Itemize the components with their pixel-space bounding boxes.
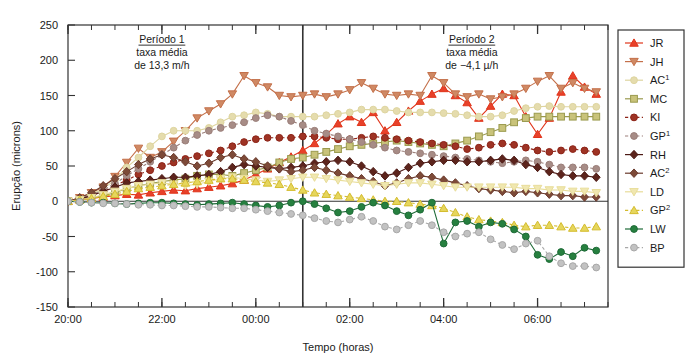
data-point bbox=[358, 139, 365, 146]
data-point bbox=[487, 113, 494, 120]
data-point bbox=[581, 172, 589, 181]
periodo-1-line-0: Período 1 bbox=[139, 33, 185, 45]
data-point bbox=[240, 73, 249, 80]
data-point bbox=[217, 153, 225, 162]
data-point bbox=[381, 172, 389, 181]
data-point bbox=[264, 134, 271, 141]
data-point bbox=[593, 113, 600, 120]
data-point bbox=[205, 203, 212, 210]
legend-superscript-AC1: 1 bbox=[665, 73, 669, 82]
data-point bbox=[159, 202, 166, 209]
data-point bbox=[229, 205, 236, 212]
data-point bbox=[382, 106, 389, 113]
x-axis-title: Tempo (horas) bbox=[303, 341, 374, 353]
data-point bbox=[311, 127, 318, 134]
y-tick-label-100: 100 bbox=[40, 125, 58, 137]
data-point bbox=[252, 80, 261, 87]
data-point bbox=[499, 112, 506, 119]
data-point bbox=[534, 237, 541, 244]
data-point bbox=[581, 103, 588, 110]
data-point bbox=[593, 264, 600, 271]
data-point bbox=[358, 106, 365, 113]
data-point bbox=[545, 221, 554, 228]
data-point bbox=[322, 94, 331, 101]
data-point bbox=[182, 127, 189, 134]
data-point bbox=[287, 94, 296, 101]
data-point bbox=[323, 205, 330, 212]
data-point bbox=[533, 130, 542, 137]
erupcao-tempo-line-chart: -150-100-5005010015020025020:0022:0000:0… bbox=[0, 0, 691, 359]
data-point bbox=[370, 133, 377, 140]
data-point bbox=[486, 96, 495, 103]
data-point bbox=[334, 156, 342, 165]
data-point bbox=[88, 199, 95, 206]
periodo-1-line-2: de 13,3 m/h bbox=[134, 59, 190, 71]
series-LW bbox=[65, 198, 600, 263]
data-point bbox=[440, 240, 447, 247]
data-point bbox=[631, 95, 638, 102]
y-tick-label-250: 250 bbox=[40, 19, 58, 31]
data-point bbox=[581, 263, 588, 270]
data-point bbox=[217, 204, 224, 211]
x-tick-label-5: 06:00 bbox=[524, 313, 552, 325]
series-AC2 bbox=[64, 150, 600, 205]
data-point bbox=[558, 260, 565, 267]
data-point bbox=[631, 114, 638, 121]
data-point bbox=[358, 203, 365, 210]
data-point bbox=[159, 163, 166, 170]
data-point bbox=[416, 92, 425, 99]
data-point bbox=[569, 72, 578, 79]
data-point bbox=[346, 109, 353, 116]
data-point bbox=[76, 199, 83, 206]
data-point bbox=[381, 127, 390, 134]
data-point bbox=[499, 140, 506, 147]
data-point bbox=[569, 263, 576, 270]
data-point bbox=[228, 163, 236, 172]
data-point bbox=[229, 113, 236, 120]
data-point bbox=[241, 112, 248, 119]
data-point bbox=[323, 112, 330, 119]
data-point bbox=[276, 202, 283, 209]
data-point bbox=[299, 122, 306, 129]
data-point bbox=[558, 249, 565, 256]
data-point bbox=[240, 155, 248, 164]
data-point bbox=[311, 151, 318, 158]
data-point bbox=[533, 78, 542, 85]
data-point bbox=[382, 134, 389, 141]
data-point bbox=[631, 244, 638, 251]
data-point bbox=[334, 169, 342, 178]
x-tick-label-0: 20:00 bbox=[54, 313, 82, 325]
data-point bbox=[405, 163, 413, 172]
data-point bbox=[322, 166, 330, 175]
data-point bbox=[534, 147, 541, 154]
series-line-BP bbox=[68, 201, 596, 267]
data-point bbox=[335, 110, 342, 117]
data-point bbox=[135, 201, 142, 208]
legend-label-LW: LW bbox=[650, 223, 666, 235]
data-point bbox=[252, 136, 259, 143]
data-point bbox=[464, 218, 471, 225]
data-point bbox=[546, 113, 553, 120]
data-point bbox=[511, 119, 518, 126]
series-GP1 bbox=[65, 112, 600, 205]
data-point bbox=[159, 133, 166, 140]
periodo-2-line-0: Período 2 bbox=[449, 33, 495, 45]
data-point bbox=[464, 112, 471, 119]
data-point bbox=[393, 108, 400, 115]
data-point bbox=[475, 113, 482, 120]
data-point bbox=[288, 134, 295, 141]
data-point bbox=[182, 137, 189, 144]
data-point bbox=[440, 141, 447, 148]
data-point bbox=[370, 218, 377, 225]
data-point bbox=[335, 133, 342, 140]
y-tick-label-0: 0 bbox=[52, 195, 58, 207]
data-point bbox=[569, 164, 576, 171]
data-point bbox=[335, 219, 342, 226]
series-RH bbox=[64, 155, 600, 206]
x-tick-label-1: 22:00 bbox=[148, 313, 176, 325]
data-point bbox=[276, 134, 283, 141]
data-point bbox=[557, 85, 566, 92]
data-point bbox=[533, 221, 542, 228]
data-point bbox=[429, 109, 436, 116]
data-point bbox=[417, 218, 424, 225]
